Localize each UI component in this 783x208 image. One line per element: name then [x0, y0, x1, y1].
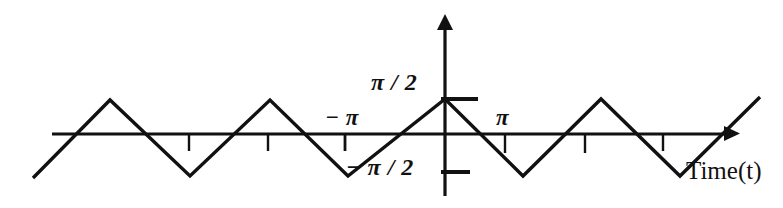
y-axis-label-positive: π / 2: [371, 70, 417, 94]
triangle-wave-figure: π / 2 − π / 2 − π π Time(t): [0, 0, 783, 208]
x-axis-ticks: [189, 134, 663, 153]
y-axis-arrowhead: [437, 14, 453, 30]
x-axis-label-negative-pi: − π: [325, 106, 359, 129]
x-axis-title: Time(t): [686, 158, 761, 183]
x-axis-label-positive-pi: π: [496, 106, 509, 129]
y-axis-label-negative: − π / 2: [346, 155, 414, 179]
